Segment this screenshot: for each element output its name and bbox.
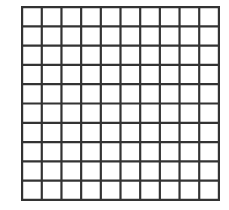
canvas: [0, 0, 229, 210]
ten-by-ten-grid: [21, 6, 220, 201]
grid-lines: [21, 6, 220, 201]
